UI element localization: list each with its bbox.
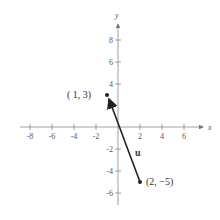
start-point-label: ( 1, 3) (67, 89, 91, 101)
x-tick-label: -2 (93, 132, 100, 141)
y-tick-label: -4 (106, 167, 113, 176)
start-point-dot (105, 93, 109, 97)
x-axis-label: x (207, 123, 212, 132)
y-tick-label: 6 (109, 58, 113, 67)
x-tick-label: -4 (71, 132, 78, 141)
y-tick-label: -2 (106, 145, 113, 154)
x-tick-label: -6 (49, 132, 56, 141)
coordinate-diagram: -8 -6 -4 -2 2 4 6 8 6 4 -2 -4 -6 x y ( 1… (0, 0, 220, 220)
x-tick-label: 2 (138, 132, 142, 141)
x-tick-label: 4 (160, 132, 164, 141)
x-tick-label: -8 (27, 132, 34, 141)
vector-label: u (135, 147, 141, 158)
x-tick-label: 6 (182, 132, 186, 141)
end-point-dot (138, 180, 142, 184)
vector-u (109, 99, 140, 182)
plot-canvas: -8 -6 -4 -2 2 4 6 8 6 4 -2 -4 -6 x y ( 1… (0, 0, 220, 220)
y-tick-label: 4 (109, 80, 113, 89)
end-point-label: (2, −5) (146, 176, 173, 188)
y-tick-label: 8 (109, 36, 113, 45)
y-axis-label: y (114, 11, 119, 20)
y-tick-label: -6 (106, 189, 113, 198)
